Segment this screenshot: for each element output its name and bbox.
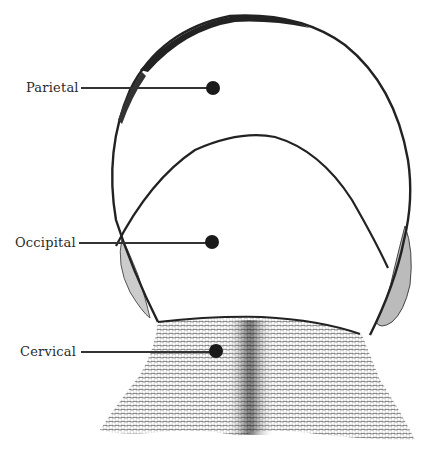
label-occipital: Occipital bbox=[15, 235, 76, 250]
ears bbox=[120, 226, 411, 326]
occipital-boundary bbox=[116, 135, 388, 268]
head-diagram: Parietal Occipital Cervical bbox=[0, 0, 427, 461]
head-illustration bbox=[0, 0, 427, 461]
skull-outline bbox=[112, 16, 410, 335]
label-parietal: Parietal bbox=[26, 80, 79, 95]
neck-shading bbox=[100, 317, 415, 440]
label-cervical: Cervical bbox=[20, 344, 76, 359]
leader-occipital bbox=[79, 235, 219, 249]
leader-parietal bbox=[81, 81, 220, 95]
